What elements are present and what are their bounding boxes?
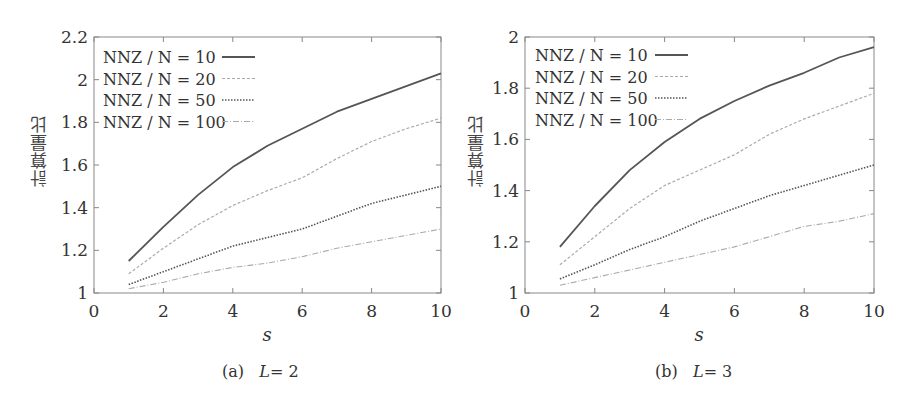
caption-b: (b) L= 3 bbox=[655, 362, 732, 381]
y-tick-label: 1.4 bbox=[492, 181, 519, 201]
x-tick-label: 2 bbox=[158, 301, 169, 321]
y-tick-label: 1.2 bbox=[492, 232, 519, 252]
x-tick-label: 6 bbox=[297, 301, 308, 321]
chart-panel-a: 024681011.21.41.61.822.2sNNZ / N = 10NNZ… bbox=[0, 0, 455, 411]
series-line bbox=[129, 186, 441, 284]
series-line bbox=[560, 214, 874, 286]
y-tick-label: 1.6 bbox=[61, 155, 88, 175]
y-tick-label: 2 bbox=[77, 70, 88, 90]
x-tick-label: 0 bbox=[89, 301, 100, 321]
y-axis-title: 計算量比 bbox=[463, 115, 488, 187]
y-tick-label: 1.6 bbox=[492, 129, 519, 149]
legend-label: NNZ / N = 10 bbox=[535, 46, 648, 65]
x-tick-label: 8 bbox=[799, 301, 810, 321]
x-axis-title: s bbox=[694, 324, 703, 345]
legend-label: NNZ / N = 50 bbox=[103, 91, 216, 110]
caption-label: (b) bbox=[655, 362, 678, 381]
x-tick-label: 4 bbox=[227, 301, 238, 321]
y-axis-title: 計算量比 bbox=[26, 115, 51, 187]
caption-value: = 3 bbox=[704, 362, 733, 381]
x-tick-label: 10 bbox=[863, 301, 885, 321]
y-tick-label: 1.4 bbox=[61, 198, 88, 218]
series-line bbox=[129, 229, 441, 289]
x-tick-label: 6 bbox=[729, 301, 740, 321]
series-line bbox=[129, 118, 441, 274]
x-tick-label: 2 bbox=[589, 301, 600, 321]
x-tick-label: 4 bbox=[659, 301, 670, 321]
legend-label: NNZ / N = 20 bbox=[535, 68, 648, 87]
legend-label: NNZ / N = 100 bbox=[103, 113, 226, 132]
legend-label: NNZ / N = 10 bbox=[103, 48, 216, 67]
x-axis-title: s bbox=[262, 324, 271, 345]
caption-label: (a) bbox=[222, 362, 244, 381]
y-tick-label: 2 bbox=[508, 27, 519, 47]
x-tick-label: 10 bbox=[430, 301, 452, 321]
y-tick-label: 1 bbox=[508, 283, 519, 303]
y-tick-label: 1.2 bbox=[61, 240, 88, 260]
x-tick-label: 8 bbox=[366, 301, 377, 321]
chart-a-svg: 024681011.21.41.61.822.2sNNZ / N = 10NNZ… bbox=[0, 0, 455, 411]
legend-label: NNZ / N = 100 bbox=[535, 111, 658, 130]
chart-panel-b: 024681011.21.41.61.82sNNZ / N = 10NNZ / … bbox=[455, 0, 910, 411]
x-tick-label: 0 bbox=[520, 301, 531, 321]
y-tick-label: 1.8 bbox=[492, 78, 519, 98]
caption-a: (a) L= 2 bbox=[222, 362, 299, 381]
series-line bbox=[560, 165, 874, 279]
caption-var: L bbox=[693, 362, 704, 381]
caption-value: = 2 bbox=[270, 362, 299, 381]
legend-label: NNZ / N = 20 bbox=[103, 70, 216, 89]
chart-b-svg: 024681011.21.41.61.82sNNZ / N = 10NNZ / … bbox=[455, 0, 910, 411]
caption-var: L bbox=[259, 362, 270, 381]
legend-label: NNZ / N = 50 bbox=[535, 89, 648, 108]
y-tick-label: 1.8 bbox=[61, 112, 88, 132]
y-tick-label: 1 bbox=[77, 283, 88, 303]
y-tick-label: 2.2 bbox=[61, 27, 88, 47]
